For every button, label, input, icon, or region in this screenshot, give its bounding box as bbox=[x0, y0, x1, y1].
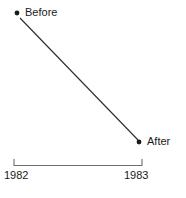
data-label-before: Before bbox=[25, 7, 57, 18]
data-point-before[interactable] bbox=[15, 11, 20, 16]
data-point-after[interactable] bbox=[137, 140, 142, 145]
trend-line bbox=[20, 18, 138, 140]
x-axis-bracket bbox=[14, 159, 142, 166]
x-tick-label-1982: 1982 bbox=[4, 170, 28, 181]
x-tick-label-1983: 1983 bbox=[124, 170, 148, 181]
data-label-after: After bbox=[147, 136, 170, 147]
slope-chart: Before After 1982 1983 bbox=[0, 0, 186, 198]
